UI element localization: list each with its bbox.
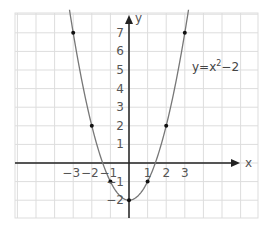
x-tick-label: −2 <box>81 166 99 180</box>
equation-tail: −2 <box>221 60 239 74</box>
y-tick-label: 3 <box>116 100 124 114</box>
x-tick-labels: −3−2−1123 <box>62 166 188 180</box>
parabola-chart: −3−2−1123 7654321−1−2 x y y=x2−2 <box>0 0 267 233</box>
x-tick-label: 1 <box>144 166 152 180</box>
x-tick-label: 2 <box>162 166 170 180</box>
y-tick-label: 4 <box>116 82 124 96</box>
grid <box>15 13 258 218</box>
data-point <box>146 180 150 184</box>
data-point <box>183 31 187 35</box>
y-axis-label: y <box>135 11 142 25</box>
x-axis-label: x <box>245 156 252 170</box>
x-tick-label: −3 <box>62 166 80 180</box>
data-point <box>127 198 131 202</box>
y-tick-label: −1 <box>106 175 124 189</box>
y-tick-label: 6 <box>116 44 124 58</box>
y-tick-label: 1 <box>116 137 124 151</box>
equation-base: y=x <box>192 60 216 74</box>
y-tick-label: −2 <box>106 193 124 207</box>
x-axis-arrow-icon <box>231 159 240 167</box>
axes <box>15 15 240 218</box>
data-point <box>164 124 168 128</box>
y-axis-arrow-icon <box>125 15 133 24</box>
y-tick-label: 7 <box>116 26 124 40</box>
data-point <box>90 124 94 128</box>
y-tick-labels: 7654321−1−2 <box>106 26 124 207</box>
equation-label: y=x2−2 <box>192 59 239 74</box>
x-tick-label: 3 <box>181 166 189 180</box>
data-point <box>71 31 75 35</box>
y-tick-label: 5 <box>116 63 124 77</box>
y-tick-label: 2 <box>116 119 124 133</box>
